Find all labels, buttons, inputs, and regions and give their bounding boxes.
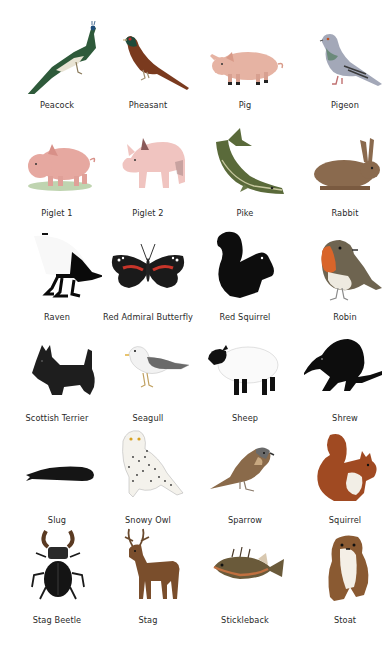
grid-item-squirrel[interactable]: Squirrel [296, 427, 391, 531]
grid-item-pigeon[interactable]: Pigeon [296, 12, 391, 116]
grid-item-stag[interactable]: Stag [99, 527, 197, 631]
squirrel-icon [300, 427, 390, 509]
butterfly-icon [103, 224, 193, 306]
grid-item-rabbit[interactable]: Rabbit [296, 120, 391, 224]
animal-grid: Peacock Pheasant Pig [0, 0, 391, 651]
pike-icon [200, 120, 290, 202]
grid-item-pig[interactable]: Pig [196, 12, 294, 116]
item-label: Stoat [286, 615, 391, 625]
shrew-icon [300, 325, 390, 407]
sheep-icon [200, 325, 290, 407]
slug-icon [12, 427, 102, 509]
robin-icon [300, 224, 390, 306]
stag-icon [103, 527, 193, 609]
rabbit-icon [300, 120, 390, 202]
item-label: Pigeon [286, 100, 391, 110]
grid-item-sparrow[interactable]: Sparrow [196, 427, 294, 531]
piglet-icon [12, 120, 102, 202]
squirrel-icon [200, 224, 290, 306]
grid-item-seagull[interactable]: Seagull [99, 325, 197, 429]
grid-item-stoat[interactable]: Stoat [296, 527, 391, 631]
item-label: Rabbit [286, 208, 391, 218]
piglet-icon [103, 120, 193, 202]
sparrow-icon [200, 427, 290, 509]
beetle-icon [12, 527, 102, 609]
seagull-icon [103, 325, 193, 407]
terrier-icon [12, 325, 102, 407]
grid-item-snowy-owl[interactable]: Snowy Owl [99, 427, 197, 531]
grid-item-red-squirrel[interactable]: Red Squirrel [196, 224, 294, 328]
grid-item-robin[interactable]: Robin [296, 224, 391, 328]
grid-item-stickleback[interactable]: Stickleback [196, 527, 294, 631]
item-label: Robin [286, 312, 391, 322]
stoat-icon [300, 527, 390, 609]
pheasant-icon [103, 12, 193, 94]
fish-icon [200, 527, 290, 609]
owl-icon [103, 427, 193, 509]
grid-item-shrew[interactable]: Shrew [296, 325, 391, 429]
grid-item-sheep[interactable]: Sheep [196, 325, 294, 429]
pig-icon [200, 12, 290, 94]
grid-item-red-admiral-butterfly[interactable]: Red Admiral Butterfly [99, 224, 197, 328]
pigeon-icon [300, 12, 390, 94]
item-label: Squirrel [286, 515, 391, 525]
raven-icon [12, 224, 102, 306]
grid-item-pheasant[interactable]: Pheasant [99, 12, 197, 116]
grid-item-piglet-2[interactable]: Piglet 2 [99, 120, 197, 224]
peacock-icon [12, 12, 102, 94]
grid-item-pike[interactable]: Pike [196, 120, 294, 224]
item-label: Shrew [286, 413, 391, 423]
